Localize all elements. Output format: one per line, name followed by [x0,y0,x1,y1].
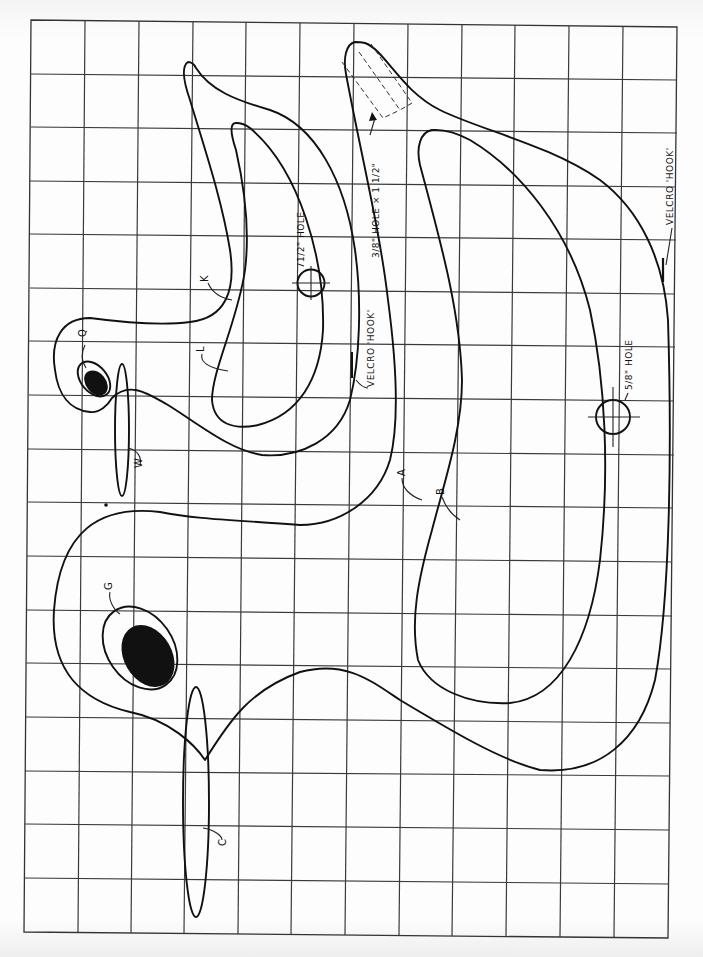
registration-dot [104,503,108,507]
velcro-outer-label: VELCRO 'HOOK' [665,147,675,225]
slot-hole-label: 3/8" HOLE × 1 1/2" [371,162,381,258]
small-goose-bill-w [115,364,129,496]
label-a: A [396,469,407,476]
half-hole-leader [298,264,304,266]
grid [24,20,677,938]
label-l: L [195,346,206,352]
large-goose-bill-c [183,687,209,917]
label-b: B [435,488,446,495]
five-eighths-leader [625,393,628,400]
label-g: G [103,582,114,590]
velcro-inner-label: VELCRO 'HOOK' [366,309,376,387]
label-k: K [199,275,210,282]
velcro-outer-leader [666,228,672,265]
slot-arrow [369,112,377,121]
pattern-sheet: 1/2" HOLE Q W K L 3/8" HOLE × 1 1/2" 5/8… [0,0,703,957]
large-goose-wing-b [415,130,605,703]
large-goose-eye-g [87,592,193,704]
pattern-drawing: 1/2" HOLE Q W K L 3/8" HOLE × 1 1/2" 5/8… [0,0,703,957]
c-leader [203,828,222,840]
small-goose-wing-l [212,123,323,427]
label-c: C [217,839,228,846]
five-eighths-hole [588,387,640,447]
label-w: W [133,458,144,468]
l-leader [202,354,228,371]
a-leader [402,478,422,500]
label-q: Q [77,329,88,337]
half-hole-label: 1/2" HOLE [296,211,306,262]
five-eighths-hole-label: 5/8" HOLE [624,339,634,390]
